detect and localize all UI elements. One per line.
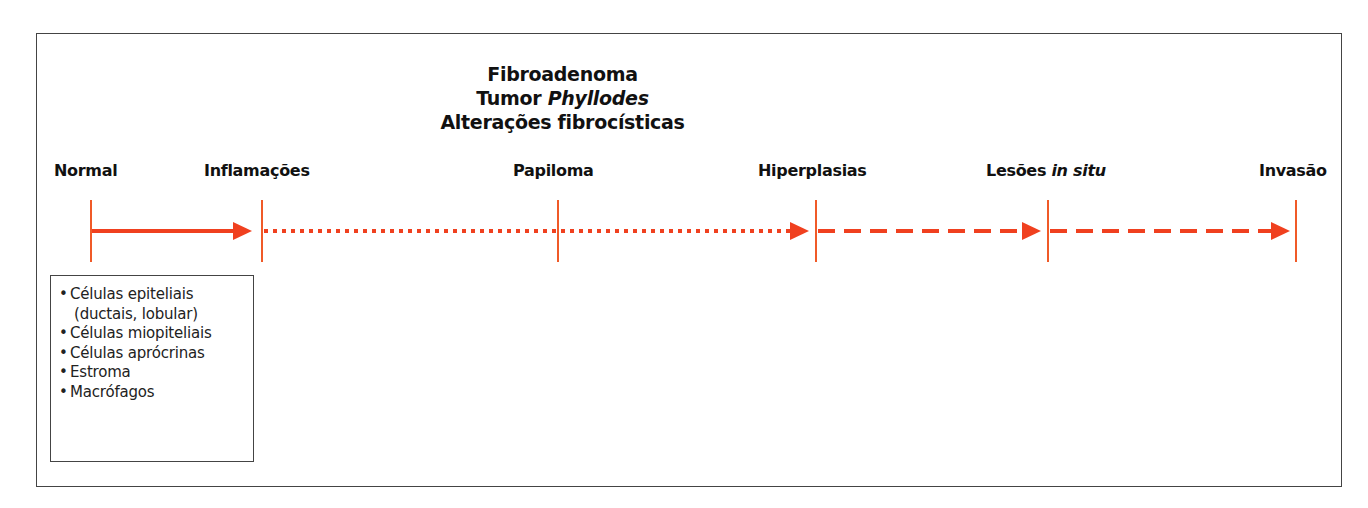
legend-item: Células epiteliais(ductais, lobular): [59, 285, 253, 324]
legend-item: Células miopiteliais: [59, 324, 253, 344]
arrow-icon: [1271, 222, 1290, 240]
arrow-icon: [233, 222, 252, 240]
arrow-icon: [790, 222, 809, 240]
legend-item: Macrófagos: [59, 383, 253, 403]
legend-item: Células aprócrinas: [59, 344, 253, 364]
legend-item: Estroma: [59, 363, 253, 383]
arrow-icon: [1022, 222, 1041, 240]
cell-types-legend: Células epiteliais(ductais, lobular) Cél…: [50, 275, 254, 462]
